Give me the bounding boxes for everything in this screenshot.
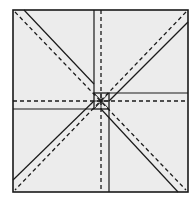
crease-pattern-diagram [0, 0, 196, 205]
diagram-title [0, 195, 196, 205]
center-point [99, 99, 102, 102]
